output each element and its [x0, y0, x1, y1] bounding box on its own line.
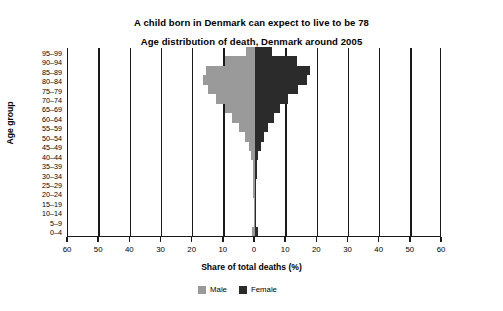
x-tick-label: 10 [270, 245, 300, 254]
bar-female [255, 113, 274, 122]
x-tick [129, 237, 130, 242]
pyramid-row [68, 85, 440, 94]
bar-male [225, 56, 255, 65]
bar-female [255, 75, 307, 84]
pyramid-row [68, 151, 440, 160]
bar-female [255, 47, 272, 56]
bar-female [255, 132, 264, 141]
x-tick [253, 237, 254, 242]
pyramid-row [68, 142, 440, 151]
pyramid-row [68, 66, 440, 75]
bar-female [255, 198, 256, 207]
bar-female [255, 94, 288, 103]
x-tick-label: 30 [146, 245, 176, 254]
pyramid-row [68, 170, 440, 179]
pyramid-row [68, 75, 440, 84]
y-axis-tick-labels: 0–45–910–1415–1920–2425–2930–3435–3940–4… [0, 48, 65, 237]
bar-female [255, 56, 297, 65]
bar-female [255, 160, 257, 169]
bar-series-container [68, 48, 440, 236]
bar-female [255, 142, 261, 151]
pyramid-row [68, 179, 440, 188]
bar-male [216, 94, 255, 103]
pyramid-row [68, 94, 440, 103]
bar-female [255, 66, 310, 75]
pyramid-row [68, 189, 440, 198]
x-tick-label: 60 [52, 245, 82, 254]
pyramid-row [68, 47, 440, 56]
x-tick [191, 237, 192, 242]
x-tick-label: 30 [333, 245, 363, 254]
y-tick-label: 80–84 [42, 77, 62, 86]
legend-label-male: Male [210, 285, 227, 294]
x-tick [378, 237, 379, 242]
bar-male [206, 66, 255, 75]
x-tick [160, 237, 161, 242]
x-tick-label: 60 [426, 245, 456, 254]
x-tick-label: 40 [364, 245, 394, 254]
pyramid-row [68, 227, 440, 236]
bar-male [239, 123, 255, 132]
pyramid-row [68, 123, 440, 132]
x-tick-label: 20 [301, 245, 331, 254]
y-tick-label: 50–54 [42, 133, 62, 142]
pyramid-row [68, 160, 440, 169]
legend-swatch-female-icon [239, 286, 247, 294]
y-tick-label: 40–44 [42, 152, 62, 161]
pyramid-row [68, 132, 440, 141]
pyramid-row [68, 198, 440, 207]
legend-label-female: Female [251, 285, 277, 294]
y-tick-label: 85–89 [42, 67, 62, 76]
bar-male [203, 75, 255, 84]
x-tick-label: 10 [208, 245, 238, 254]
y-tick-label: 65–69 [42, 105, 62, 114]
bar-female [255, 151, 258, 160]
x-tick [66, 237, 67, 242]
x-tick-label: 50 [83, 245, 113, 254]
x-tick-label: 20 [177, 245, 207, 254]
y-tick-label: 30–34 [42, 171, 62, 180]
pyramid-row [68, 113, 440, 122]
x-axis-title: Share of total deaths (%) [0, 262, 503, 272]
y-tick-label: 5–9 [50, 218, 62, 227]
y-tick-label: 45–49 [42, 143, 62, 152]
legend: Male Female [0, 285, 503, 294]
x-tick-label: 0 [239, 245, 269, 254]
x-tick [97, 237, 98, 242]
x-tick [347, 237, 348, 242]
x-tick [284, 237, 285, 242]
y-tick-label: 0–4 [50, 228, 62, 237]
pyramid-row [68, 208, 440, 217]
chart-title: A child born in Denmark can expect to li… [0, 17, 503, 28]
legend-item-male: Male [198, 285, 227, 294]
bar-male [225, 104, 255, 113]
y-tick-label: 60–64 [42, 114, 62, 123]
pyramid-row [68, 104, 440, 113]
bar-male [232, 113, 255, 122]
y-tick-label: 25–29 [42, 181, 62, 190]
y-tick-label: 70–74 [42, 95, 62, 104]
bar-female [255, 170, 257, 179]
y-tick-label: 55–59 [42, 124, 62, 133]
y-tick-label: 20–24 [42, 190, 62, 199]
bar-female [255, 104, 280, 113]
bar-female [255, 227, 258, 236]
bar-male [208, 85, 255, 94]
pyramid-row [68, 56, 440, 65]
x-tick [316, 237, 317, 242]
y-tick-label: 75–79 [42, 86, 62, 95]
bar-female [255, 208, 256, 217]
x-tick [409, 237, 410, 242]
legend-item-female: Female [239, 285, 277, 294]
bar-female [255, 179, 256, 188]
bar-female [255, 217, 256, 226]
plot-area [67, 48, 441, 237]
bar-female [255, 85, 298, 94]
x-tick-label: 50 [395, 245, 425, 254]
y-tick-label: 90–94 [42, 58, 62, 67]
bar-male [246, 47, 255, 56]
population-pyramid-chart: A child born in Denmark can expect to li… [0, 0, 503, 311]
bar-female [255, 123, 268, 132]
x-tick-label: 40 [114, 245, 144, 254]
y-tick-label: 35–39 [42, 162, 62, 171]
